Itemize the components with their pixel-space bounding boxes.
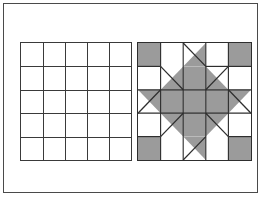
quilt-cell-gray-square (228, 137, 251, 160)
quilt-cell-gray-square (183, 66, 206, 89)
grid-line-h1 (21, 66, 131, 67)
quilt-cell-gray-square (183, 90, 206, 113)
quilt-cell-base (138, 113, 161, 136)
quilt-cell-base (206, 137, 229, 160)
quilt-cell-gray-square (161, 90, 184, 113)
quilt-cell-base (228, 113, 251, 136)
grid-line-h2 (21, 90, 131, 91)
quilt-cell-base (228, 66, 251, 89)
quilt-cell-gray-square (228, 43, 251, 66)
figure-root: Blank 5 by 5 grid Pieced quilt block (0, 0, 266, 202)
grid-line-v4 (109, 43, 110, 160)
grid-line-v2 (65, 43, 66, 160)
quilt-block-panel (137, 42, 252, 161)
grid-line-v1 (43, 43, 44, 160)
figure-frame (3, 3, 258, 193)
quilt-cell-gray-square (206, 90, 229, 113)
grid-line-h3 (21, 113, 131, 114)
grid-line-v3 (87, 43, 88, 160)
quilt-cell-base (138, 66, 161, 89)
quilt-cell-base (161, 137, 184, 160)
quilt-cell-gray-square (138, 43, 161, 66)
quilt-cell-base (161, 43, 184, 66)
quilt-cell-base (206, 43, 229, 66)
blank-grid-lines (21, 43, 131, 160)
grid-line-h4 (21, 137, 131, 138)
quilt-block-svg (138, 43, 251, 160)
quilt-cell-gray-square (138, 137, 161, 160)
quilt-cell-gray-square (183, 113, 206, 136)
blank-grid-panel (20, 42, 132, 161)
